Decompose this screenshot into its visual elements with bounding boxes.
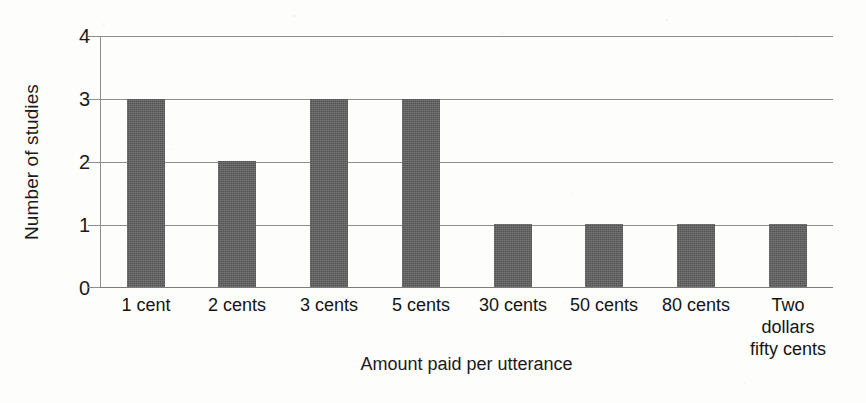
- y-tick-label-2: 2: [56, 152, 90, 172]
- x-tick-label-line: 3 cents: [300, 295, 358, 315]
- bar-5-cents[interactable]: [402, 99, 440, 287]
- plot-area: [100, 36, 833, 287]
- bar-80-cents[interactable]: [677, 224, 715, 287]
- x-tick-label-line: 50 cents: [570, 295, 638, 315]
- bar-50-cents[interactable]: [585, 224, 623, 287]
- x-tick-label-line: 5 cents: [392, 295, 450, 315]
- gridline-4: [100, 36, 833, 37]
- x-tick-label-two-dollars-fifty-cents: Two dollars fifty cents: [729, 294, 847, 360]
- y-tick-mark-4: [88, 36, 100, 37]
- x-tick-label-line: 80 cents: [662, 295, 730, 315]
- y-tick-mark-1: [88, 225, 100, 226]
- gridline-1: [100, 225, 833, 226]
- x-tick-label-line: 1 cent: [121, 295, 170, 315]
- x-axis-baseline: [100, 287, 833, 288]
- y-axis-title: Number of studies: [20, 12, 44, 312]
- y-tick-label-4: 4: [56, 26, 90, 46]
- bar-3-cents[interactable]: [310, 99, 348, 287]
- x-axis-title: Amount paid per utterance: [100, 352, 833, 376]
- gridline-2: [100, 162, 833, 163]
- bar-1-cent[interactable]: [127, 99, 165, 287]
- bar-two-dollars-fifty-cents[interactable]: [769, 224, 807, 287]
- x-tick-label-line: 30 cents: [479, 295, 547, 315]
- bar-2-cents[interactable]: [218, 161, 256, 287]
- bar-30-cents[interactable]: [494, 224, 532, 287]
- gridline-3: [100, 99, 833, 100]
- y-tick-mark-0: [88, 287, 100, 288]
- y-tick-label-1: 1: [56, 215, 90, 235]
- x-tick-label-line: Two: [729, 294, 847, 316]
- y-tick-mark-2: [88, 162, 100, 163]
- x-tick-label-line: 2 cents: [208, 295, 266, 315]
- y-tick-label-0: 0: [56, 278, 90, 298]
- y-tick-mark-3: [88, 99, 100, 100]
- y-tick-label-3: 3: [56, 89, 90, 109]
- bar-chart-figure: Number of studies 4 3 2 1 0 1 cent 2 cen: [0, 0, 866, 403]
- x-tick-label-line: dollars: [729, 316, 847, 338]
